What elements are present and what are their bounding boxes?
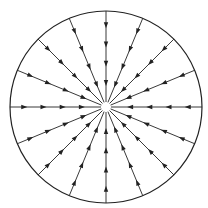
arrowhead-icon xyxy=(72,180,76,186)
arrowhead-icon xyxy=(72,28,76,34)
arrowhead-icon xyxy=(136,180,140,186)
arrowhead-icon xyxy=(104,128,108,134)
arrowhead-icon xyxy=(40,105,46,109)
arrowhead-icon xyxy=(129,162,133,168)
arrowhead-icon xyxy=(179,73,185,77)
arrowhead-icon xyxy=(185,105,191,109)
arrowhead-icon xyxy=(143,87,149,91)
arrowhead-icon xyxy=(179,137,185,141)
arrowhead-icon xyxy=(143,122,149,126)
arrowhead-icon xyxy=(104,167,108,173)
arrowhead-icon xyxy=(62,122,68,126)
arrowhead-icon xyxy=(121,63,125,69)
arrowhead-icon xyxy=(104,61,108,67)
arrowhead-icon xyxy=(127,105,133,109)
arrowhead-icon xyxy=(27,137,33,141)
field-lines xyxy=(10,11,202,203)
arrowhead-icon xyxy=(94,127,98,133)
arrowhead-icon xyxy=(62,87,68,91)
arrowhead-icon xyxy=(79,105,85,109)
arrowhead-icon xyxy=(86,63,90,69)
arrowhead-icon xyxy=(80,115,86,119)
arrowhead-icon xyxy=(104,22,108,28)
radial-field-diagram xyxy=(0,0,208,208)
arrowhead-icon xyxy=(121,144,125,150)
arrowhead-icon xyxy=(79,46,83,52)
arrowhead-icon xyxy=(114,81,118,87)
arrowhead-icon xyxy=(104,147,108,153)
arrowhead-icon xyxy=(146,105,152,109)
arrowhead-icon xyxy=(114,127,118,133)
arrowhead-icon xyxy=(86,144,90,150)
arrowhead-icon xyxy=(80,95,86,99)
arrowhead-icon xyxy=(136,28,140,34)
arrowhead-icon xyxy=(94,81,98,87)
arrowhead-icon xyxy=(129,46,133,52)
arrowhead-icon xyxy=(166,105,172,109)
arrowhead-icon xyxy=(27,73,33,77)
arrowhead-icon xyxy=(21,105,27,109)
arrowhead-icon xyxy=(104,41,108,47)
arrowhead-icon xyxy=(45,130,51,134)
arrowhead-icon xyxy=(104,186,108,192)
arrowhead-icon xyxy=(45,80,51,84)
arrowhead-icon xyxy=(60,105,66,109)
arrowhead-icon xyxy=(126,95,132,99)
arrowhead-icon xyxy=(161,130,167,134)
arrowhead-icon xyxy=(161,80,167,84)
arrowhead-icon xyxy=(79,162,83,168)
arrowhead-icon xyxy=(126,115,132,119)
arrowhead-icon xyxy=(104,80,108,86)
